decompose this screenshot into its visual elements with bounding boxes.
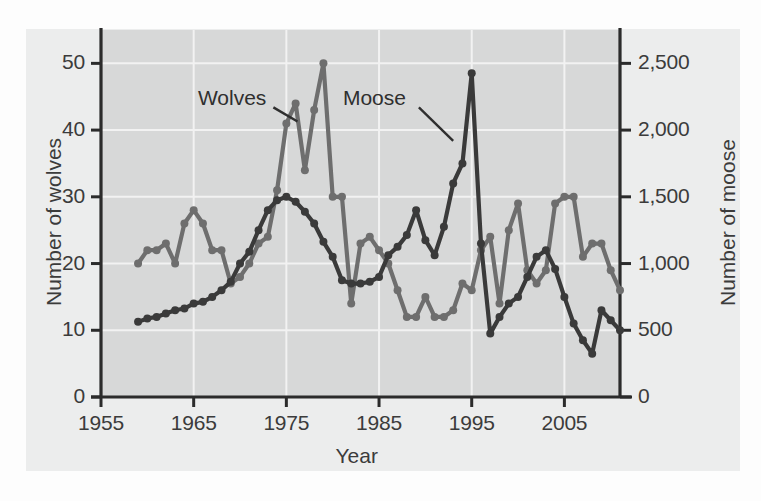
data-point — [199, 220, 207, 228]
data-point — [162, 310, 170, 318]
data-point — [403, 313, 411, 321]
data-point — [347, 300, 355, 308]
data-point — [523, 273, 531, 281]
data-point — [310, 220, 318, 228]
x-tick-label: 1955 — [61, 411, 141, 435]
data-point — [468, 286, 476, 294]
data-point — [570, 320, 578, 328]
data-point — [570, 193, 578, 201]
data-point — [505, 226, 513, 234]
data-point — [310, 106, 318, 114]
data-point — [579, 336, 587, 344]
data-point — [412, 313, 420, 321]
data-point — [597, 306, 605, 314]
data-point — [421, 236, 429, 244]
y-tick-label-right: 1,500 — [638, 184, 690, 208]
data-point — [171, 306, 179, 314]
y-tick-label-left: 0 — [74, 384, 85, 408]
data-point — [486, 330, 494, 338]
data-point — [292, 198, 300, 206]
data-point — [431, 251, 439, 259]
data-point — [607, 266, 615, 274]
data-point — [301, 208, 309, 216]
data-point — [264, 206, 272, 214]
data-point — [338, 276, 346, 284]
data-point — [607, 316, 615, 324]
data-point — [440, 223, 448, 231]
data-point — [412, 206, 420, 214]
data-point — [449, 306, 457, 314]
data-point — [180, 220, 188, 228]
y-tick-label-right: 1,000 — [638, 251, 690, 275]
data-point — [347, 280, 355, 288]
data-point — [496, 313, 504, 321]
data-point — [143, 246, 151, 254]
series-annotation-wolves: Wolves — [198, 86, 266, 110]
data-point — [301, 166, 309, 174]
data-point — [208, 293, 216, 301]
data-point — [477, 240, 485, 248]
data-point — [264, 233, 272, 241]
data-point — [496, 300, 504, 308]
data-point — [468, 69, 476, 77]
data-point — [375, 246, 383, 254]
data-point — [329, 193, 337, 201]
data-point — [458, 280, 466, 288]
data-point — [449, 179, 457, 187]
data-point — [542, 266, 550, 274]
data-point — [153, 313, 161, 321]
data-point — [273, 186, 281, 194]
x-axis-title: Year — [336, 444, 378, 468]
data-point — [227, 278, 235, 286]
data-point — [505, 300, 513, 308]
data-point — [616, 326, 624, 334]
data-point — [551, 199, 559, 207]
x-tick-label: 2005 — [524, 411, 604, 435]
data-point — [394, 243, 402, 251]
data-point — [384, 251, 392, 259]
data-point — [153, 246, 161, 254]
y-axis-right-title: Number of moose — [716, 139, 740, 306]
y-tick-label-right: 0 — [638, 384, 649, 408]
y-tick-label-right: 500 — [638, 317, 672, 341]
data-point — [134, 318, 142, 326]
data-point — [282, 119, 290, 127]
data-point — [171, 260, 179, 268]
data-point — [236, 260, 244, 268]
data-point — [217, 246, 225, 254]
data-point — [366, 233, 374, 241]
data-point — [560, 193, 568, 201]
data-point — [245, 248, 253, 256]
data-point — [236, 273, 244, 281]
data-point — [292, 99, 300, 107]
data-point — [208, 246, 216, 254]
x-tick-label: 1985 — [339, 411, 419, 435]
data-point — [180, 305, 188, 313]
data-point — [542, 246, 550, 254]
data-point — [431, 313, 439, 321]
data-point — [560, 293, 568, 301]
data-point — [255, 226, 263, 234]
data-point — [616, 286, 624, 294]
data-point — [190, 300, 198, 308]
data-point — [458, 159, 466, 167]
data-point — [588, 240, 596, 248]
data-point — [357, 280, 365, 288]
y-tick-label-left: 10 — [62, 317, 85, 341]
gridlines-group — [101, 30, 620, 397]
data-point — [282, 193, 290, 201]
data-point — [319, 59, 327, 67]
axis-lines-group — [91, 28, 632, 397]
data-point — [357, 240, 365, 248]
y-tick-label-right: 2,000 — [638, 117, 690, 141]
data-point — [366, 278, 374, 286]
data-point — [134, 260, 142, 268]
data-point — [486, 233, 494, 241]
data-point — [217, 286, 225, 294]
data-point — [338, 193, 346, 201]
data-point — [394, 286, 402, 294]
data-point — [533, 280, 541, 288]
x-tick-label: 1995 — [432, 411, 512, 435]
data-point — [273, 196, 281, 204]
x-tick-label: 1965 — [154, 411, 234, 435]
